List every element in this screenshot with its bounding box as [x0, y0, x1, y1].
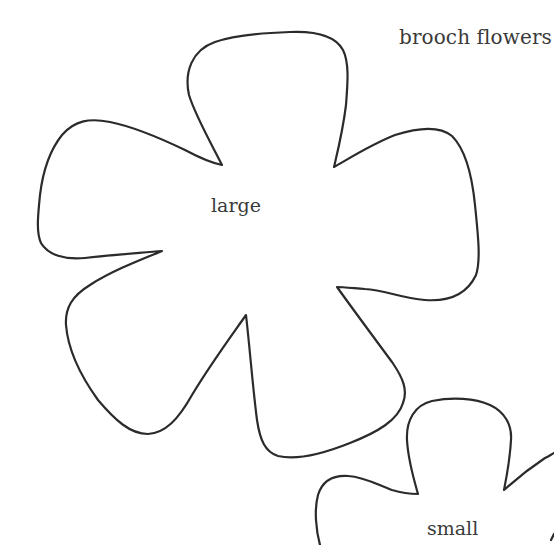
- page-title: brooch flowers: [399, 27, 552, 47]
- flower-outlines: [0, 0, 554, 545]
- large-flower-outline: [38, 32, 479, 458]
- large-flower-label: large: [211, 196, 261, 215]
- template-sheet: brooch flowers large small: [0, 0, 554, 545]
- small-flower-label: small: [427, 519, 478, 538]
